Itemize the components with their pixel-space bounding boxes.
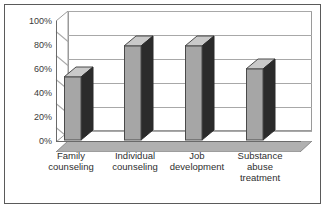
y-tick-label-60: 60% xyxy=(34,64,52,74)
gridline-100 xyxy=(68,11,312,12)
bar-individual-counseling[interactable] xyxy=(124,46,141,141)
x-tick-label-substance-abuse-treatment: Substance abuse treatment xyxy=(222,150,298,183)
y-tick-label-40: 40% xyxy=(34,88,52,98)
bar-3d-shape xyxy=(246,57,279,141)
y-tick-label-100: 100% xyxy=(29,16,52,26)
y-tick-label-0: 0% xyxy=(39,136,52,146)
bar-3d-shape xyxy=(64,65,97,141)
y-axis-line xyxy=(56,21,57,142)
y-tick-label-20: 20% xyxy=(34,112,52,122)
bar-3d-shape xyxy=(185,34,218,141)
x-axis-labels: Family counseling Individual counseling … xyxy=(0,148,327,208)
y-tick-label-80: 80% xyxy=(34,40,52,50)
plot-area xyxy=(56,21,300,141)
x-axis-line xyxy=(56,141,301,142)
bar-chart: 100% 80% 60% 40% 20% 0% xyxy=(0,0,327,210)
chart-screenshot: 100% 80% 60% 40% 20% 0% xyxy=(0,0,327,210)
bar-family-counseling[interactable] xyxy=(64,77,81,141)
bar-3d-shape xyxy=(124,34,157,141)
bar-job-development[interactable] xyxy=(185,46,202,141)
bar-substance-abuse-treatment[interactable] xyxy=(246,69,263,141)
